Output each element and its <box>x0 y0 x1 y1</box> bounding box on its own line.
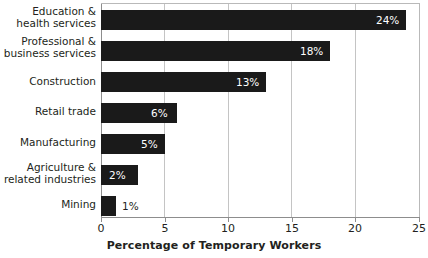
x-axis-title: Percentage of Temporary Workers <box>0 239 428 252</box>
x-tick-label-15: 15 <box>277 222 307 236</box>
bars-group: 24% 18% 13% 6% 5% 2% <box>101 4 419 218</box>
category-label-line: Education & <box>0 6 96 18</box>
category-label-agriculture-related-industries: Agriculture & related industries <box>0 162 96 185</box>
category-label-line: Mining <box>0 199 96 211</box>
category-label-construction: Construction <box>0 76 96 88</box>
category-label-line: Construction <box>0 76 96 88</box>
x-tick-label-0: 0 <box>86 222 116 236</box>
plot-area: 24% 18% 13% 6% 5% 2% <box>101 3 420 218</box>
category-label-line: related industries <box>0 174 96 186</box>
bar-value-label: 2% <box>109 165 126 185</box>
category-label-mining: Mining <box>0 199 96 211</box>
category-label-line: business services <box>0 48 96 60</box>
category-axis: Education & health services Professional… <box>0 0 96 220</box>
bar-value-label: 1% <box>122 196 139 216</box>
bar-education-health-services <box>101 10 406 30</box>
x-tick-label-10: 10 <box>213 222 243 236</box>
category-label-line: Retail trade <box>0 106 96 118</box>
bar-value-label: 24% <box>376 10 399 30</box>
x-tick-label-20: 20 <box>340 222 370 236</box>
category-label-line: Agriculture & <box>0 162 96 174</box>
category-label-professional-business-services: Professional & business services <box>0 36 96 59</box>
bar-professional-business-services <box>101 41 330 61</box>
category-label-line: Manufacturing <box>0 137 96 149</box>
bar-chart: Education & health services Professional… <box>0 0 428 258</box>
bar-value-label: 13% <box>236 72 259 92</box>
x-axis-line <box>101 217 420 218</box>
x-tick-label-25: 25 <box>404 222 428 236</box>
bar-value-label: 6% <box>151 103 168 123</box>
category-label-retail-trade: Retail trade <box>0 106 96 118</box>
category-label-education-health-services: Education & health services <box>0 6 96 29</box>
bar-mining <box>101 196 116 216</box>
x-tick-label-5: 5 <box>150 222 180 236</box>
bar-value-label: 5% <box>141 134 158 154</box>
category-label-line: health services <box>0 18 96 30</box>
category-label-line: Professional & <box>0 36 96 48</box>
category-label-manufacturing: Manufacturing <box>0 137 96 149</box>
bar-value-label: 18% <box>300 41 323 61</box>
